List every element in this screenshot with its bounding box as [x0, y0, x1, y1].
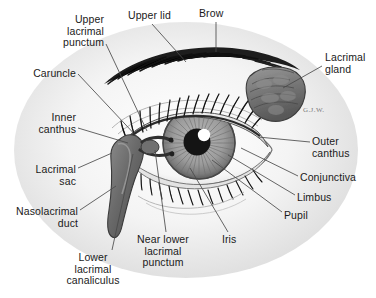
label-upper-lacrimal-punctum: Upper lacrimal punctum: [30, 14, 104, 49]
label-lower-lacrimal-canaliculus: Lower lacrimal canaliculus: [56, 252, 130, 287]
lacrimal-gland: [246, 67, 305, 121]
label-inner-canthus: Inner canthus: [20, 112, 76, 135]
label-limbus: Limbus: [297, 192, 347, 204]
label-brow: Brow: [199, 8, 239, 20]
upper-punctum: [169, 138, 174, 143]
label-lacrimal-sac: Lacrimal sac: [12, 164, 76, 187]
label-outer-canthus: Outer canthus: [312, 136, 368, 159]
label-conjunctiva: Conjunctiva: [300, 172, 374, 184]
lower-punctum: [170, 152, 175, 157]
label-near-lower-lacrimal-punctum: Near lower lacrimal punctum: [128, 234, 198, 269]
artist-signature: G.J.W.: [303, 106, 324, 114]
label-iris: Iris: [222, 234, 248, 246]
label-caruncle: Caruncle: [14, 68, 76, 80]
label-pupil: Pupil: [284, 210, 324, 222]
label-lacrimal-gland: Lacrimal gland: [325, 52, 373, 75]
corneal-highlight: [198, 129, 210, 141]
eye-anatomy-figure: Upper lacrimal punctumUpper lidBrowLacri…: [0, 0, 376, 298]
label-upper-lid: Upper lid: [128, 10, 188, 22]
label-nasolacrimal-duct: Nasolacrimal duct: [2, 206, 78, 229]
caruncle: [141, 140, 159, 154]
